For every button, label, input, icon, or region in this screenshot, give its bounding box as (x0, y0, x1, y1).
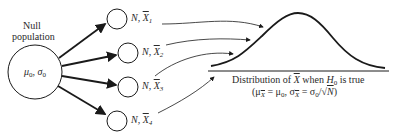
sample-label-1: N, X1 (131, 12, 152, 27)
sample-circle-2 (118, 43, 138, 63)
sample-label-2: N, X2 (142, 46, 163, 61)
distribution-formula: (μX = μ0, σX = σ0/√N) (252, 86, 337, 101)
sample-circle-4 (107, 111, 127, 131)
mean-arrow-1 (162, 21, 263, 27)
normal-curve (211, 13, 385, 68)
sample-label-3: N, X3 (142, 80, 163, 95)
null-population-params: μ0, σ0 (24, 66, 46, 81)
sample-circle-1 (107, 9, 127, 29)
null-label-line2: population (12, 31, 55, 42)
sampling-arrow-2 (62, 55, 116, 66)
sampling-arrow-3 (62, 76, 116, 85)
mean-arrow-2 (166, 39, 250, 45)
diagram-canvas (0, 0, 398, 136)
sample-label-4: N, X4 (131, 114, 152, 129)
sampling-arrow-1 (59, 24, 105, 58)
null-label-line1: Null (23, 20, 41, 31)
mean-arrow-4 (158, 77, 214, 113)
sampling-arrow-4 (58, 86, 105, 114)
sample-circle-3 (118, 77, 138, 97)
